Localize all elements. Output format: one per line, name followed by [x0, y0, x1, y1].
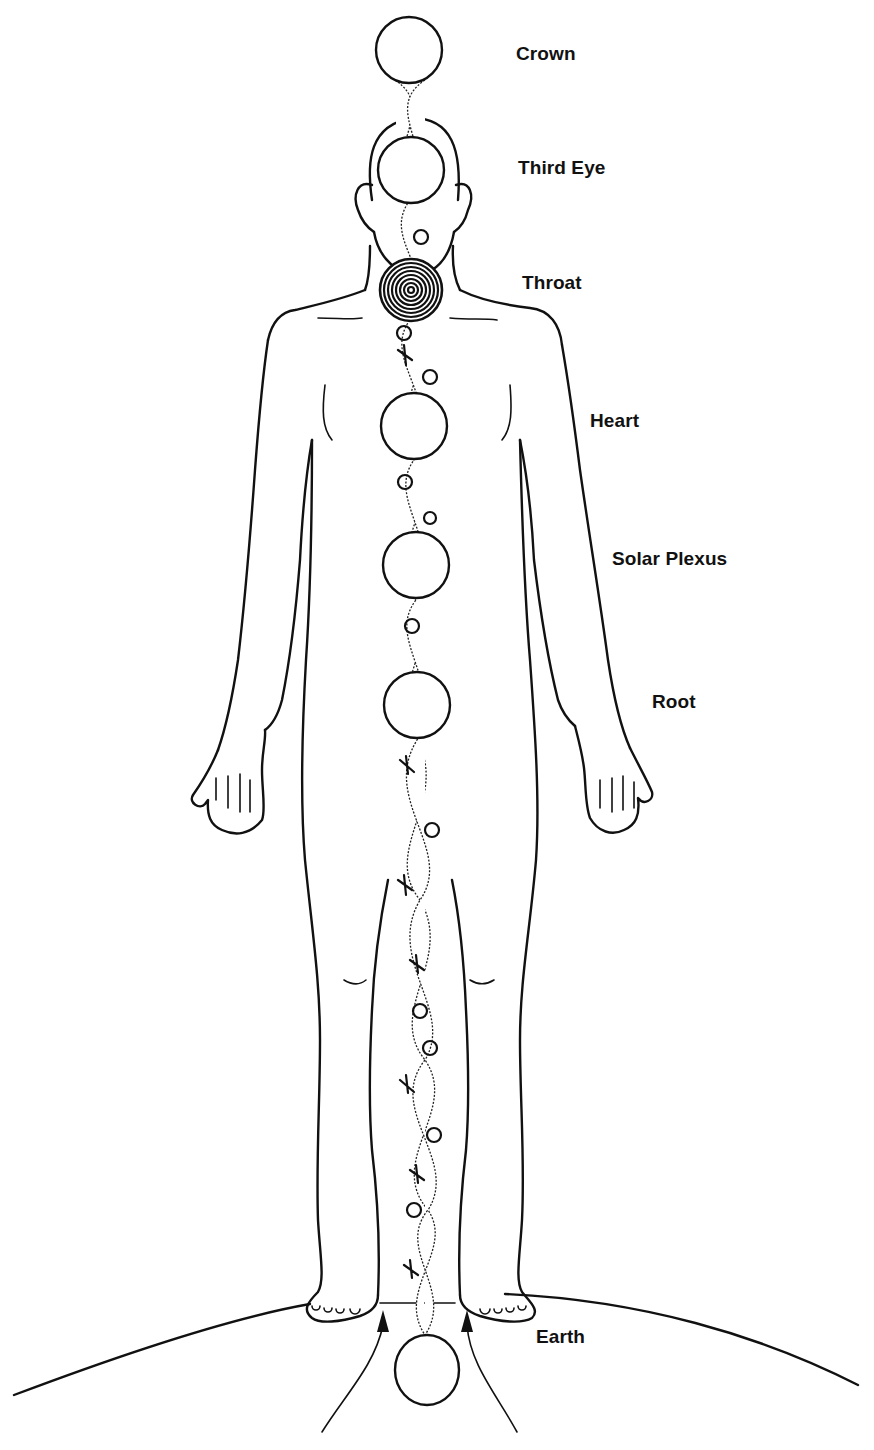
- chakra-crown-circle: [376, 17, 442, 83]
- left-upward-arrow: [322, 1310, 389, 1432]
- label-crown: Crown: [516, 43, 576, 65]
- label-root: Root: [652, 691, 696, 713]
- chakra-solar-plexus-circle: [383, 532, 449, 598]
- label-throat: Throat: [522, 272, 582, 294]
- chakra-third-eye-circle: [378, 137, 444, 203]
- label-heart: Heart: [590, 410, 639, 432]
- chakra-earth-circle: [395, 1335, 459, 1405]
- right-upward-arrow: [461, 1310, 517, 1432]
- chakra-diagram: [0, 0, 874, 1450]
- label-third-eye: Third Eye: [518, 157, 605, 179]
- label-solar-plexus: Solar Plexus: [612, 548, 727, 570]
- chakra-throat-circle: [380, 259, 442, 321]
- chakra-heart-circle: [381, 393, 447, 459]
- chakra-root-circle: [384, 672, 450, 738]
- label-earth: Earth: [536, 1326, 585, 1348]
